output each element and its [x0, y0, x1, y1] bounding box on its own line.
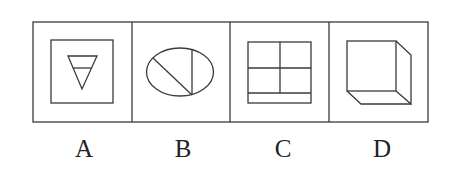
option-a-figure[interactable] — [51, 40, 113, 103]
option-d-figure[interactable] — [347, 41, 411, 104]
option-b-label: B — [175, 135, 192, 162]
option-c-figure[interactable] — [248, 42, 311, 103]
option-figure: A B C D — [0, 0, 451, 192]
option-b-figure[interactable] — [147, 48, 214, 96]
option-c-label: C — [275, 135, 292, 162]
option-d-label: D — [373, 135, 391, 162]
option-a-label: A — [75, 135, 93, 162]
panel-frame — [33, 22, 428, 122]
